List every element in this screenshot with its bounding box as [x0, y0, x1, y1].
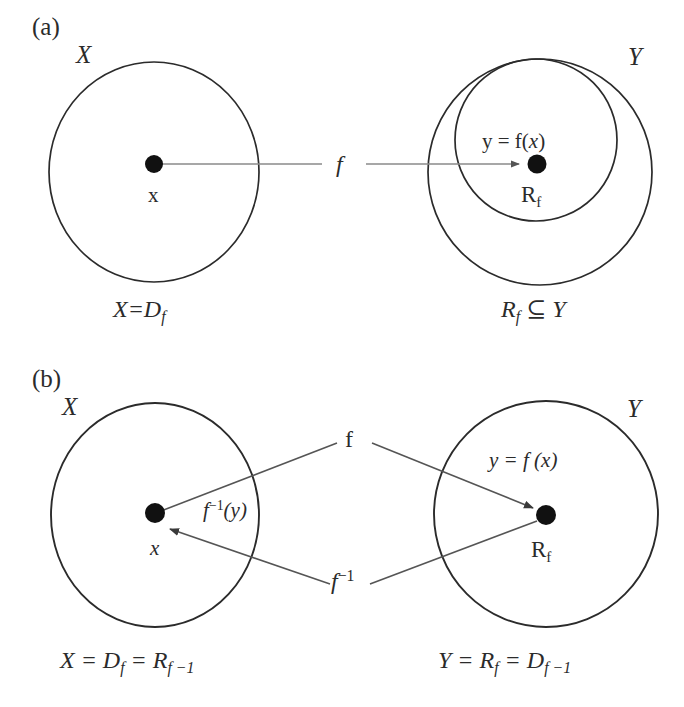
panel-b-domain-point-label: x: [150, 538, 159, 559]
panel-b-inverse-value-arg: (y): [224, 498, 247, 522]
panel-b-domain-set-label: X: [62, 394, 77, 419]
panel-b-graphics: [51, 401, 658, 627]
panel-a-equation-label: y = f(x): [482, 131, 545, 152]
panel-b-inverse-value-label: f−1(y): [203, 499, 247, 521]
panel-b-range-label-sub: f: [546, 548, 551, 565]
panel-a-domain-point-label: x: [148, 185, 159, 206]
panel-a-codomain-caption-tail: ⊆ Y: [520, 296, 565, 322]
panel-a-range-point-label: Rf: [521, 183, 541, 209]
panel-a-map-label: f: [336, 152, 343, 176]
panel-b-inverse-map-base: f: [331, 568, 338, 594]
panel-b-codomain-caption-sub2: f −1: [544, 659, 571, 676]
panel-b-forward-map-label: f: [345, 427, 353, 451]
panel-b-inverse-arrow-in: [370, 521, 537, 584]
panel-b-range-point-label: Rf: [531, 538, 551, 564]
panel-b-domain-caption-mid: = R: [125, 647, 168, 673]
diagram-canvas: [0, 0, 684, 707]
function-diagram-figure: (a) X Y x f y = f(x) Rf X=Df Rf ⊆ Y (b) …: [0, 0, 684, 707]
panel-b-equation-label: y = f (x): [489, 450, 557, 471]
panel-b-inverse-value-exponent: −1: [209, 498, 224, 513]
panel-a-range-point: [528, 155, 547, 174]
panel-a-range-label-sub: f: [536, 193, 541, 210]
panel-a-codomain-caption-prefix: R: [501, 296, 516, 322]
panel-a-equation-lead: y = f(: [482, 129, 529, 153]
panel-b-range-point: [536, 505, 556, 525]
panel-b-domain-caption: X = Df = Rf −1: [60, 648, 194, 676]
panel-b-domain-caption-sub2: f −1: [167, 659, 194, 676]
panel-b-domain-point: [145, 503, 165, 523]
panel-a-equation-tail: ): [538, 129, 545, 153]
panel-b-inverse-arrow-out: [170, 529, 330, 584]
panel-a-codomain-caption: Rf ⊆ Y: [501, 297, 566, 325]
panel-b-equation-tail: ): [550, 448, 557, 472]
panel-a-codomain-set-label: Y: [628, 44, 642, 69]
panel-b-codomain-caption-mid: = D: [499, 647, 545, 673]
panel-a-range-label-prefix: R: [521, 182, 536, 207]
panel-a-domain-set-label: X: [76, 42, 91, 67]
panel-b-inverse-map-exponent: −1: [338, 567, 355, 584]
panel-b-codomain-set-label: Y: [627, 396, 641, 421]
panel-b-forward-arrow-in: [161, 443, 337, 511]
panel-a-equation-var: x: [529, 129, 538, 153]
panel-b-equation-lead: y = f (: [489, 448, 541, 472]
panel-b-codomain-caption-lead: Y = R: [438, 647, 494, 673]
panel-b-domain-caption-lead: X = D: [60, 647, 120, 673]
panel-a-domain-point: [145, 155, 163, 173]
panel-b-inverse-map-label: f−1: [331, 568, 355, 593]
panel-a-tag: (a): [32, 14, 60, 39]
panel-a-domain-caption-prefix: X=D: [113, 296, 161, 322]
panel-a-domain-caption-sub: f: [161, 308, 165, 325]
panel-b-codomain-caption: Y = Rf = Df −1: [438, 648, 571, 676]
panel-a-domain-caption: X=Df: [113, 297, 166, 325]
panel-b-equation-var: x: [541, 448, 550, 472]
panel-b-tag: (b): [32, 366, 61, 391]
panel-b-range-label-prefix: R: [531, 537, 546, 562]
panel-a-graphics: [49, 59, 652, 285]
